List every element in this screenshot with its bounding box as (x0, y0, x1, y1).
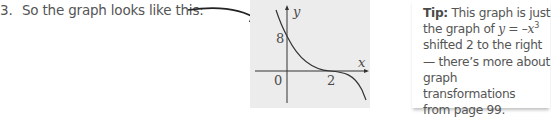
tip-line-3: shifted 2 to the right (423, 38, 542, 52)
tip-box: Tip: This graph is just the graph of y =… (412, 0, 550, 108)
equation-mid: = – (505, 22, 528, 36)
y-intercept-label: 8 (276, 31, 284, 46)
tip-line-1: This graph is just (448, 6, 550, 20)
equation-lhs: y (498, 22, 505, 36)
step-3-text: 3.So the graph looks like this: (0, 2, 204, 18)
tip-text: Tip: This graph is just the graph of y =… (423, 5, 551, 118)
tip-label: Tip: (423, 6, 448, 20)
step-number: 3. (0, 2, 22, 18)
graph-svg (250, 0, 370, 108)
origin-label: 0 (274, 73, 282, 88)
x-axis-label: x (358, 55, 365, 70)
tip-line-2: the graph of (423, 22, 498, 36)
cubic-graph: y x 8 0 2 (250, 0, 370, 108)
tip-line-5: graph transformations (423, 71, 515, 101)
step-text: So the graph looks like this: (22, 2, 204, 18)
x-root-label: 2 (327, 73, 335, 88)
y-axis-label: y (293, 4, 300, 19)
tip-line-4: — there’s more about (423, 55, 550, 69)
equation-exponent: 3 (534, 21, 539, 30)
tip-line-6: from page 99. (423, 103, 505, 117)
